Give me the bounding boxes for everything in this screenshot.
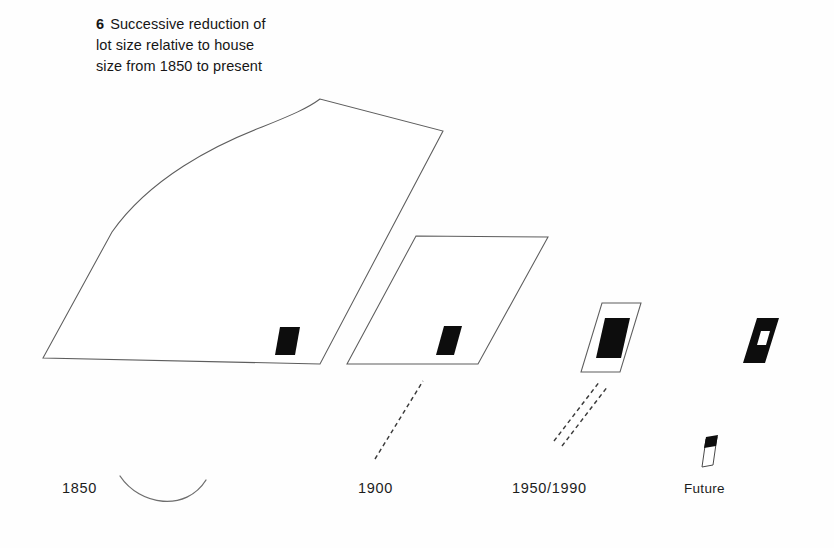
figure-root: 6Successive reduction of lot size relati… [0, 0, 834, 548]
era-label-1900: 1900 [358, 480, 393, 496]
diagram-canvas [0, 0, 834, 548]
lot-boundary-dashed-1950-b [562, 386, 608, 446]
era-label-1850: 1850 [62, 480, 97, 496]
page-fold-curve [120, 476, 206, 501]
era-label-future: Future [684, 481, 725, 496]
lot-boundary-dashed-1900 [375, 381, 423, 459]
house-footprint-future [743, 318, 779, 363]
lot-boundary-dashed-1950-a [554, 381, 600, 441]
era-label-1950-1990: 1950/1990 [512, 480, 587, 496]
